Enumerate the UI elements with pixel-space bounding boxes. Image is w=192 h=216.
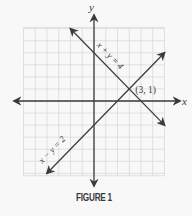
intersection-label: (3, 1)	[135, 85, 156, 96]
line-label-x-plus-y-eq-4: x + y = 4	[94, 39, 126, 71]
coordinate-plane-figure: xy(3, 1)x + y = 4x − y = 2	[0, 0, 192, 216]
x-axis-label: x	[181, 95, 187, 107]
figure-caption: FIGURE 1	[17, 192, 171, 203]
y-axis-label: y	[88, 1, 94, 13]
